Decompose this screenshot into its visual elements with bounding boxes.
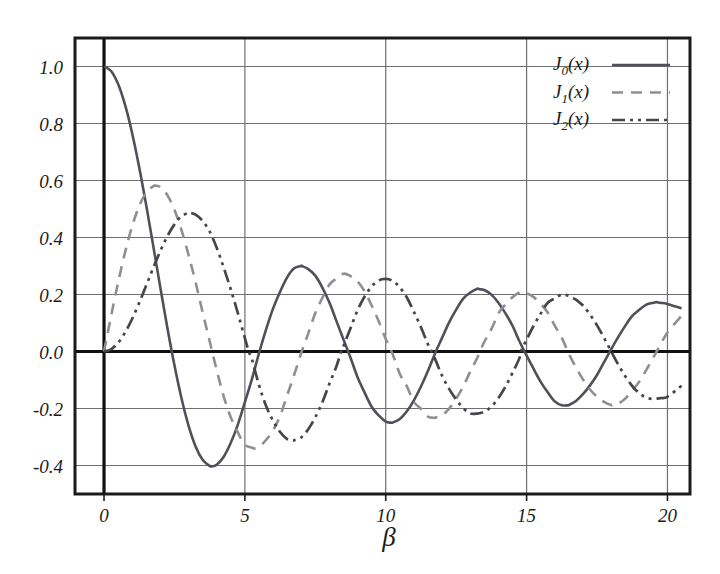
y-tick-label: 0.0	[39, 342, 63, 363]
x-tick-label: 0	[99, 505, 109, 526]
x-tick-label: 15	[517, 505, 536, 526]
y-tick-label: 0.2	[39, 285, 63, 306]
y-tick-label: 0.4	[39, 228, 63, 249]
y-tick-label: -0.4	[33, 456, 64, 477]
y-tick-label: 1.0	[39, 57, 63, 78]
x-tick-label: 20	[658, 505, 678, 526]
plot-area-background	[75, 38, 690, 494]
x-tick-label: 5	[240, 505, 250, 526]
y-tick-label: 0.8	[39, 114, 63, 135]
x-axis-title: β	[381, 522, 396, 552]
bessel-function-figure: 1.00.80.60.40.20.0-0.2-0.4 05101520 β J0…	[0, 0, 720, 574]
y-tick-label: -0.2	[33, 399, 64, 420]
plot-svg: 1.00.80.60.40.20.0-0.2-0.4 05101520 β J0…	[0, 0, 720, 574]
y-tick-label: 0.6	[39, 171, 63, 192]
